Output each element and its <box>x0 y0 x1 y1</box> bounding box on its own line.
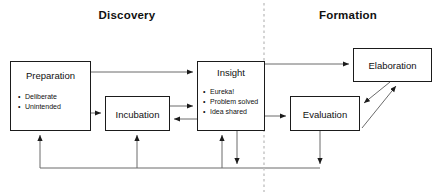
node-incubation[interactable]: Incubation <box>105 96 170 131</box>
list-item: Deliberate <box>17 92 90 102</box>
edge-evaluation-to-elaboration <box>362 86 396 128</box>
node-elaboration[interactable]: Elaboration <box>353 48 432 82</box>
node-insight[interactable]: Insight Eureka! Problem solved Idea shar… <box>197 61 265 131</box>
node-evaluation[interactable]: Evaluation <box>290 96 360 131</box>
list-item: Problem solved <box>202 97 264 107</box>
node-elaboration-title: Elaboration <box>354 60 431 71</box>
node-insight-title: Insight <box>198 68 264 78</box>
list-item: Eureka! <box>202 87 264 97</box>
node-insight-bullets: Eureka! Problem solved Idea shared <box>202 87 264 117</box>
creativity-process-diagram: Discovery Formation Preparation Delibera… <box>0 0 440 195</box>
node-preparation[interactable]: Preparation Deliberate Unintended <box>10 61 91 131</box>
phase-heading-discovery: Discovery <box>99 9 156 21</box>
node-evaluation-title: Evaluation <box>291 108 359 119</box>
list-item: Idea shared <box>202 107 264 117</box>
node-preparation-title: Preparation <box>11 71 90 81</box>
phase-heading-formation: Formation <box>319 9 377 21</box>
list-item: Unintended <box>17 102 90 112</box>
node-preparation-bullets: Deliberate Unintended <box>17 92 90 112</box>
node-incubation-title: Incubation <box>106 108 169 119</box>
edge-elaboration-to-evaluation <box>364 82 390 103</box>
